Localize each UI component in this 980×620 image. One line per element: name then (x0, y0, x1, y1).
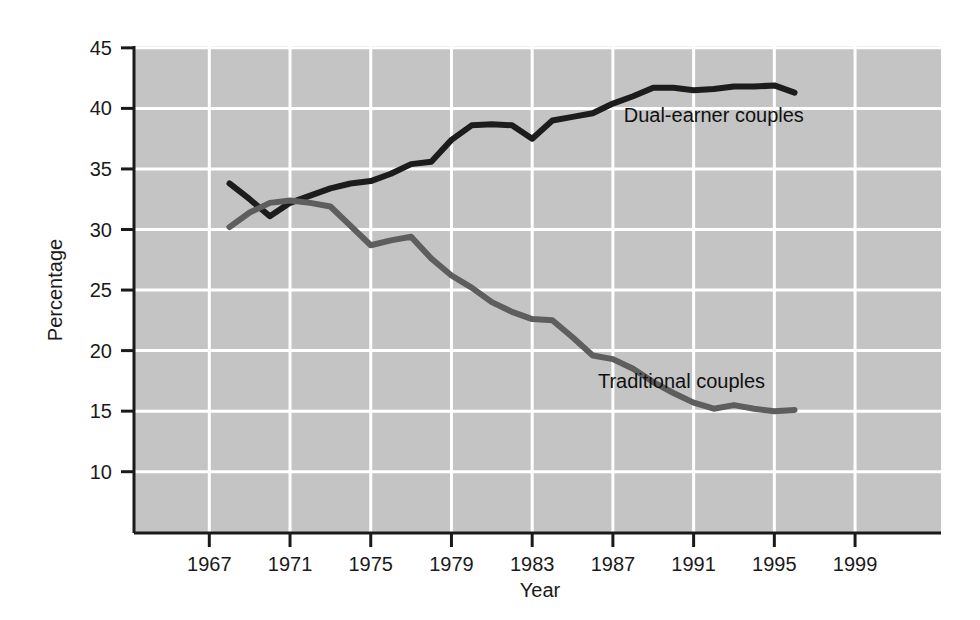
y-tick-label: 15 (90, 400, 112, 422)
x-axis-title: Year (520, 579, 561, 601)
x-axis-tick-labels: 196719711975197919831987199119951999 (187, 553, 877, 575)
x-tick-label: 1967 (187, 553, 232, 575)
x-tick-label: 1979 (429, 553, 474, 575)
traditional-couples-label: Traditional couples (598, 370, 765, 392)
x-tick-label: 1995 (752, 553, 797, 575)
y-tick-label: 40 (90, 97, 112, 119)
y-tick-label: 20 (90, 340, 112, 362)
y-tick-label: 45 (90, 37, 112, 59)
x-tick-label: 1987 (591, 553, 636, 575)
y-tick-label: 10 (90, 461, 112, 483)
y-axis-title: Percentage (44, 239, 66, 341)
x-tick-label: 1991 (671, 553, 716, 575)
line-chart: 1015202530354045 19671971197519791983198… (0, 0, 980, 620)
y-tick-label: 35 (90, 158, 112, 180)
x-tick-label: 1999 (833, 553, 878, 575)
dual-earner-couples-label: Dual-earner couples (624, 104, 804, 126)
x-tick-label: 1971 (268, 553, 313, 575)
y-tick-label: 25 (90, 279, 112, 301)
y-tick-label: 30 (90, 219, 112, 241)
x-tick-label: 1975 (348, 553, 393, 575)
x-tick-label: 1983 (510, 553, 555, 575)
